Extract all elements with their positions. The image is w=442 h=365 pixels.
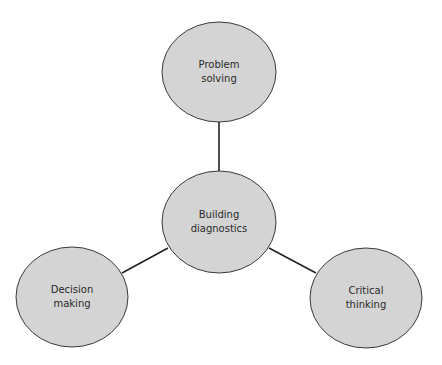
label-line: making <box>22 297 122 311</box>
label-critical-thinking: Critical thinking <box>316 284 416 312</box>
label-line: Problem <box>169 58 269 72</box>
edge-to-decision-making <box>122 248 168 273</box>
label-line: thinking <box>316 298 416 312</box>
label-problem-solving: Problem solving <box>169 58 269 86</box>
label-line: diagnostics <box>169 222 269 236</box>
label-line: solving <box>169 72 269 86</box>
label-line: Critical <box>316 284 416 298</box>
label-line: Building <box>169 208 269 222</box>
label-decision-making: Decision making <box>22 283 122 311</box>
label-building-diagnostics: Building diagnostics <box>169 208 269 236</box>
edge-to-critical-thinking <box>269 248 316 273</box>
label-line: Decision <box>22 283 122 297</box>
